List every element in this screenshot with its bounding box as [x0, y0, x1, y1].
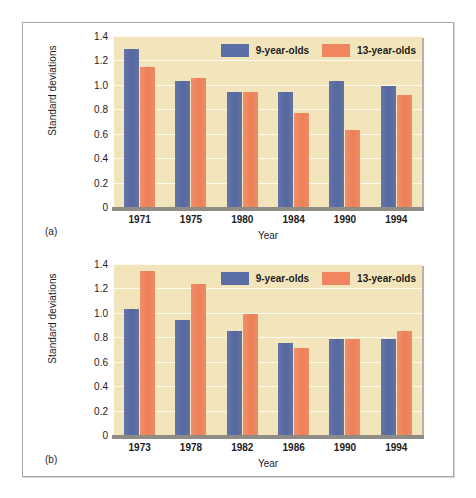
legend-label: 13-year-olds [357, 45, 416, 56]
bar-9-year-olds-1994 [381, 339, 396, 435]
y-axis-title: Standard deviations [47, 26, 58, 156]
legend-label: 9-year-olds [256, 273, 309, 284]
x-axis-line [112, 207, 424, 211]
figure-frame: Standard deviations 00.20.40.60.81.01.21… [22, 22, 454, 477]
bar-13-year-olds-1984 [294, 113, 309, 207]
bar-group: 1994 [371, 264, 422, 435]
x-axis-title: Year [114, 458, 422, 469]
x-axis-tick-label: 1982 [231, 442, 253, 453]
y-axis-tick-label: 0.6 [94, 356, 108, 367]
bar-13-year-olds-1971 [140, 67, 155, 207]
bar-group: 1971 [114, 36, 165, 207]
x-axis-tick-label: 1978 [180, 442, 202, 453]
bar-13-year-olds-1978 [191, 284, 206, 435]
x-axis-tick-label: 1994 [385, 214, 407, 225]
legend-swatch-9-year-olds [221, 44, 249, 57]
bar-9-year-olds-1978 [175, 320, 190, 435]
y-axis-title: Standard deviations [47, 254, 58, 384]
panel-tag-a: (a) [45, 226, 57, 237]
bar-group: 1984 [268, 36, 319, 207]
bar-13-year-olds-1994 [397, 95, 412, 207]
y-axis-tick-label: 0.8 [94, 104, 108, 115]
y-axis-tick-label: 0.8 [94, 332, 108, 343]
x-axis-line [112, 435, 424, 439]
y-axis-tick-label: 0.4 [94, 153, 108, 164]
legend-item: 9-year-olds [221, 272, 309, 285]
x-axis-tick-label: 1971 [129, 214, 151, 225]
bar-9-year-olds-1994 [381, 86, 396, 207]
y-axis-tick-label: 0.2 [94, 405, 108, 416]
bar-group: 1994 [371, 36, 422, 207]
bar-9-year-olds-1986 [278, 343, 293, 435]
y-axis-tick-label: 0.6 [94, 128, 108, 139]
y-axis-tick-label: 0 [102, 202, 108, 213]
x-axis-tick-label: 1994 [385, 442, 407, 453]
legend-label: 13-year-olds [357, 273, 416, 284]
y-axis-tick-label: 1.2 [94, 55, 108, 66]
bar-group: 1980 [217, 36, 268, 207]
plot-area-a: 00.20.40.60.81.01.21.4197119751980198419… [114, 36, 422, 207]
bar-group: 1990 [319, 264, 370, 435]
x-axis-tick-label: 1980 [231, 214, 253, 225]
bar-13-year-olds-1973 [140, 271, 155, 435]
x-axis-tick-label: 1973 [129, 442, 151, 453]
bar-13-year-olds-1980 [243, 92, 258, 207]
legend-swatch-9-year-olds [221, 272, 249, 285]
legend-swatch-13-year-olds [322, 44, 350, 57]
y-axis-tick-label: 1.0 [94, 307, 108, 318]
x-axis-title: Year [114, 230, 422, 241]
bar-9-year-olds-1980 [227, 92, 242, 207]
bar-group: 1982 [217, 264, 268, 435]
legend-item: 13-year-olds [322, 44, 416, 57]
y-axis-tick-label: 0 [102, 430, 108, 441]
y-axis-tick-label: 1.0 [94, 79, 108, 90]
y-axis-tick-label: 0.4 [94, 381, 108, 392]
bar-9-year-olds-1975 [175, 81, 190, 207]
y-axis-tick-label: 1.2 [94, 283, 108, 294]
bar-13-year-olds-1975 [191, 78, 206, 207]
chart-panel-b: Standard deviations 00.20.40.60.81.01.21… [23, 251, 455, 478]
chart-legend: 9-year-olds13-year-olds [221, 44, 416, 57]
bar-13-year-olds-1990 [345, 339, 360, 435]
x-axis-tick-label: 1986 [283, 442, 305, 453]
chart-legend: 9-year-olds13-year-olds [221, 272, 416, 285]
bar-group: 1978 [165, 264, 216, 435]
legend-item: 13-year-olds [322, 272, 416, 285]
bar-13-year-olds-1986 [294, 348, 309, 435]
y-axis-tick-label: 1.4 [94, 31, 108, 42]
plot-area-b: 00.20.40.60.81.01.21.4197319781982198619… [114, 264, 422, 435]
bar-9-year-olds-1990 [329, 81, 344, 207]
y-axis-tick-label: 0.2 [94, 177, 108, 188]
x-axis-tick-label: 1975 [180, 214, 202, 225]
legend-item: 9-year-olds [221, 44, 309, 57]
bar-13-year-olds-1990 [345, 130, 360, 207]
x-axis-tick-label: 1984 [283, 214, 305, 225]
bar-group: 1986 [268, 264, 319, 435]
panel-tag-b: (b) [45, 454, 57, 465]
bar-13-year-olds-1982 [243, 314, 258, 435]
legend-swatch-13-year-olds [322, 272, 350, 285]
bar-9-year-olds-1984 [278, 92, 293, 207]
y-axis-tick-label: 1.4 [94, 259, 108, 270]
x-axis-tick-label: 1990 [334, 214, 356, 225]
x-axis-tick-label: 1990 [334, 442, 356, 453]
bar-group: 1973 [114, 264, 165, 435]
bar-9-year-olds-1982 [227, 331, 242, 435]
legend-label: 9-year-olds [256, 45, 309, 56]
bar-9-year-olds-1990 [329, 339, 344, 435]
bar-group: 1975 [165, 36, 216, 207]
bar-group: 1990 [319, 36, 370, 207]
bar-13-year-olds-1994 [397, 331, 412, 435]
bar-9-year-olds-1971 [124, 49, 139, 207]
bar-9-year-olds-1973 [124, 309, 139, 435]
chart-panel-a: Standard deviations 00.20.40.60.81.01.21… [23, 23, 455, 250]
